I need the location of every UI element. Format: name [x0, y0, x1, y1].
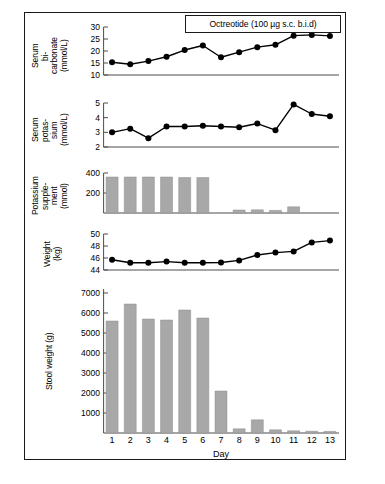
plot-svg-weight [103, 234, 339, 270]
plot-serum-potassium: 5 4 3 2 [103, 103, 339, 147]
ytick-label: 1000 [81, 409, 103, 418]
day-tick-label: 13 [325, 435, 335, 445]
axis-title-potassium-supplement: Potassium supple- ment (mmol) [31, 168, 87, 224]
drug-annotation-box: Octreotide (100 µg s.c. b.i.d) [185, 15, 341, 33]
plot-weight: 50 48 46 44 [103, 234, 339, 270]
panel-stool-weight: Stool weight (g) 7000 6000 5000 4000 300… [25, 281, 347, 461]
ytick-label: 48 [91, 242, 103, 251]
ytick-label: 30 [91, 23, 103, 32]
day-tick-label: 11 [289, 435, 298, 445]
plot-svg-potassium-supplement [103, 173, 339, 213]
ytick-label: 6000 [81, 309, 103, 318]
day-tick-label: 10 [270, 435, 280, 445]
axis-title-stool-weight: Stool weight (g) [45, 291, 61, 431]
panel-serum-potassium: Serum potas- sium (mmol/L) 5 4 3 2 [25, 95, 347, 167]
axis-title-weight: Weight (kg) [43, 232, 87, 276]
ytick-label: 20 [91, 47, 103, 56]
ytick-label: 5 [95, 99, 103, 108]
ytick-label: 3 [95, 128, 103, 137]
day-tick-label: 3 [146, 435, 151, 445]
x-axis-title: Day [103, 449, 339, 459]
ytick-label: 44 [91, 266, 103, 275]
plot-svg-stool-weight [103, 289, 339, 433]
figure-frame: Serum bi- carbonate (mmol/L) 30 25 20 15… [24, 12, 346, 460]
day-tick-label: 12 [307, 435, 317, 445]
day-tick-label: 4 [164, 435, 169, 445]
axis-title-serum-potassium: Serum potas- sium (mmol/L) [31, 101, 87, 159]
day-tick-label: 5 [182, 435, 187, 445]
ytick-label: 25 [91, 35, 103, 44]
plot-svg-serum-bicarbonate [103, 27, 339, 75]
ytick-label: 15 [91, 59, 103, 68]
day-tick-label: 7 [218, 435, 223, 445]
plot-stool-weight: 7000 6000 5000 4000 3000 2000 1000 [103, 289, 339, 433]
plot-potassium-supplement: 400 200 [103, 173, 339, 213]
ytick-label: 46 [91, 254, 103, 263]
panel-potassium-supplement: Potassium supple- ment (mmol) 400 200 [25, 168, 347, 228]
day-tick-label: 2 [128, 435, 133, 445]
panel-serum-bicarbonate: Serum bi- carbonate (mmol/L) 30 25 20 15… [25, 13, 347, 91]
ytick-label: 3000 [81, 369, 103, 378]
day-axis-labels: 12345678910111213 [103, 435, 339, 449]
day-tick-label: 9 [255, 435, 260, 445]
ytick-label: 4 [95, 113, 103, 122]
ytick-label: 4000 [81, 349, 103, 358]
ytick-label: 400 [86, 169, 103, 178]
ytick-label: 200 [86, 189, 103, 198]
ytick-label: 2 [95, 143, 103, 152]
panel-weight: Weight (kg) 50 48 46 44 [25, 228, 347, 283]
ytick-label: 7000 [81, 289, 103, 298]
day-tick-label: 6 [200, 435, 205, 445]
plot-svg-serum-potassium [103, 103, 339, 147]
ytick-label: 2000 [81, 389, 103, 398]
day-tick-label: 8 [237, 435, 242, 445]
ytick-label: 10 [91, 71, 103, 80]
day-tick-label: 1 [110, 435, 115, 445]
axis-title-serum-bicarbonate: Serum bi- carbonate (mmol/L) [31, 25, 87, 87]
ytick-label: 5000 [81, 329, 103, 338]
ytick-label: 50 [91, 230, 103, 239]
plot-serum-bicarbonate: 30 25 20 15 10 [103, 27, 339, 75]
